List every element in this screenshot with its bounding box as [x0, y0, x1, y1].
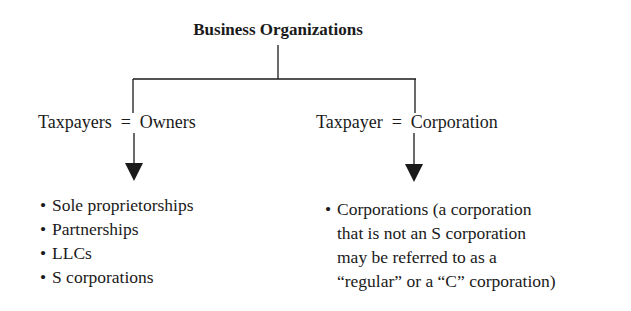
list-item: • Corporations (a corporation that is no… — [325, 197, 625, 293]
list-item-text: LLCs — [52, 243, 92, 263]
bullet-icon: • — [40, 217, 46, 241]
diagram-title: Business Organizations — [0, 20, 556, 40]
bullet-icon: • — [40, 193, 46, 217]
pass-through-entity-list: • Sole proprietorships • Partnerships • … — [40, 193, 193, 289]
list-item-text: Partnerships — [52, 219, 139, 239]
list-item: • S corporations — [40, 265, 193, 289]
branch-label-object: Corporation — [411, 112, 498, 133]
bullet-icon: • — [325, 197, 331, 221]
list-item-text-line: “regular” or a “C” corporation) — [337, 269, 625, 293]
branch-label-subject: Taxpayers — [38, 112, 112, 133]
list-item: • LLCs — [40, 241, 193, 265]
list-item-text-line: Corporations (a corporation — [337, 197, 625, 221]
list-item-text-line: may be referred to as a — [337, 245, 625, 269]
left-arrowhead-icon — [125, 163, 143, 181]
list-item-text-line: that is not an S corporation — [337, 221, 625, 245]
list-item: • Partnerships — [40, 217, 193, 241]
list-item-text: Sole proprietorships — [52, 195, 193, 215]
bullet-icon: • — [40, 241, 46, 265]
corporation-entity-list: • Corporations (a corporation that is no… — [325, 197, 625, 293]
equals-sign: = — [112, 112, 140, 133]
list-item-text: S corporations — [52, 267, 154, 287]
list-item: • Sole proprietorships — [40, 193, 193, 217]
equals-sign: = — [383, 112, 411, 133]
branch-label-corporation: Taxpayer = Corporation — [316, 112, 498, 133]
bullet-icon: • — [40, 265, 46, 289]
branch-label-object: Owners — [140, 112, 196, 133]
branch-label-pass-through: Taxpayers = Owners — [38, 112, 196, 133]
right-arrowhead-icon — [405, 164, 423, 182]
branch-label-subject: Taxpayer — [316, 112, 383, 133]
